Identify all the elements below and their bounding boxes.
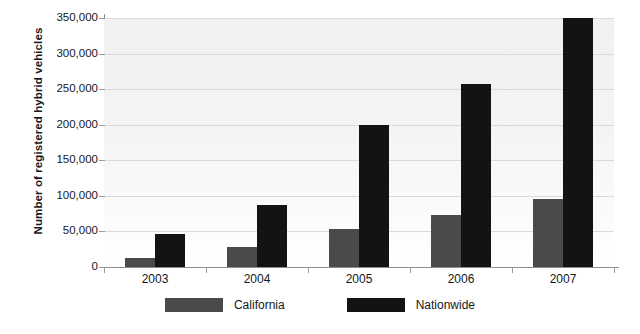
x-axis-tickmark	[614, 267, 615, 273]
legend-label: Nationwide	[416, 298, 475, 312]
bar-california-2006	[431, 215, 461, 267]
y-axis-tickmark	[99, 160, 105, 161]
y-axis-tick-labels: 050,000100,000150,000200,000250,000300,0…	[24, 0, 98, 334]
plot-area	[104, 18, 614, 267]
y-axis-tickmark	[99, 54, 105, 55]
y-axis-tick-label: 0	[26, 261, 98, 273]
hybrid-vehicles-bar-chart: Number of registered hybrid vehicles 050…	[0, 0, 640, 334]
x-axis-tick-label: 2007	[512, 272, 614, 286]
bar-nationwide-2004	[257, 205, 287, 267]
bar-nationwide-2007	[563, 18, 593, 267]
legend-item-nationwide[interactable]: Nationwide	[347, 298, 475, 312]
y-axis-tick-label: 150,000	[26, 154, 98, 166]
y-axis-tickmark	[99, 231, 105, 232]
x-axis-tick-label: 2005	[308, 272, 410, 286]
legend-label: California	[234, 298, 285, 312]
x-axis-tickmark	[512, 267, 513, 273]
x-axis-line	[99, 267, 619, 268]
y-axis-tickmark	[99, 18, 105, 19]
bar-california-2003	[125, 258, 155, 267]
bar-nationwide-2006	[461, 84, 491, 267]
bar-group	[125, 18, 185, 267]
y-axis-tick-label: 50,000	[26, 225, 98, 237]
y-axis-tickmark	[99, 196, 105, 197]
bar-group	[533, 18, 593, 267]
y-axis-tickmark	[99, 125, 105, 126]
y-axis-tick-label: 250,000	[26, 83, 98, 95]
x-axis-tickmark	[104, 267, 105, 273]
y-axis-tick-label: 350,000	[26, 12, 98, 24]
black-swatch	[347, 298, 405, 312]
bar-california-2007	[533, 199, 563, 267]
y-axis-tick-label: 200,000	[26, 119, 98, 131]
y-axis-tickmark	[99, 89, 105, 90]
bar-group	[431, 18, 491, 267]
legend-item-california[interactable]: California	[165, 298, 285, 312]
gray-swatch	[165, 298, 223, 312]
bar-group	[329, 18, 389, 267]
bar-california-2005	[329, 229, 359, 267]
bar-california-2004	[227, 247, 257, 267]
x-axis-tickmark	[308, 267, 309, 273]
x-axis-tick-label: 2006	[410, 272, 512, 286]
x-axis-tickmark	[410, 267, 411, 273]
bar-group	[227, 18, 287, 267]
chart-legend: CaliforniaNationwide	[0, 298, 640, 312]
x-axis-tick-label: 2003	[104, 272, 206, 286]
x-axis-tickmark	[206, 267, 207, 273]
bar-nationwide-2005	[359, 125, 389, 267]
y-axis-tick-label: 100,000	[26, 190, 98, 202]
x-axis-tick-label: 2004	[206, 272, 308, 286]
y-axis-tick-label: 300,000	[26, 48, 98, 60]
bar-nationwide-2003	[155, 234, 185, 267]
